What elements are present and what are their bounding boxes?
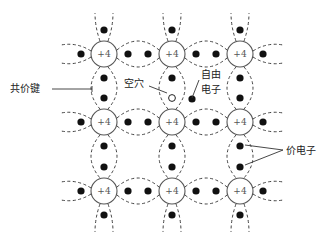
free-electron-label-line2: 电子 xyxy=(201,83,221,96)
atoms: +4+4+4+4+4+4+4+4+4 xyxy=(91,41,253,204)
bond-outline xyxy=(185,178,227,204)
edge-bond-right xyxy=(253,44,283,64)
electron-dot xyxy=(100,211,107,218)
edge-bond-right xyxy=(253,181,283,201)
atom-core: +4 xyxy=(159,178,185,204)
electron-dot xyxy=(212,50,219,57)
free-electron xyxy=(188,95,195,102)
bond-outline xyxy=(227,67,253,109)
hole xyxy=(169,95,176,102)
electron-dot xyxy=(168,74,175,81)
hole-leader xyxy=(149,86,167,93)
atom-charge-label: +4 xyxy=(165,49,179,59)
bond-outline xyxy=(117,178,159,204)
electron-dot xyxy=(77,187,84,194)
bond-outline xyxy=(117,41,159,67)
electron-dot xyxy=(259,118,266,125)
atom-core: +4 xyxy=(159,41,185,67)
atom-charge-label: +4 xyxy=(165,186,179,196)
electron-dot xyxy=(100,74,107,81)
atom-core: +4 xyxy=(159,109,185,135)
atom-core: +4 xyxy=(227,109,253,135)
free-electron-leader xyxy=(192,80,199,98)
electron-dot xyxy=(100,163,107,170)
electron-dot xyxy=(168,142,175,149)
electron-dot xyxy=(124,187,131,194)
bond-outline xyxy=(185,41,227,67)
bond-outline xyxy=(159,135,185,178)
bond-outline xyxy=(91,135,117,178)
electron-dot xyxy=(168,26,175,33)
edge-bond-left xyxy=(61,44,91,64)
electron-dot xyxy=(259,187,266,194)
valence-electron-label: 价电子 xyxy=(286,144,316,157)
atom-core: +4 xyxy=(91,109,117,135)
edge-bond-left xyxy=(61,181,91,201)
electron-dot xyxy=(100,94,107,101)
electron-dot xyxy=(212,187,219,194)
electron-dot xyxy=(100,142,107,149)
bond-outline xyxy=(117,109,159,135)
electron-dot xyxy=(144,50,151,57)
electron-dot xyxy=(236,163,243,170)
electron-dot xyxy=(77,50,84,57)
electron-dot xyxy=(192,50,199,57)
atom-charge-label: +4 xyxy=(97,117,111,127)
electron-dot xyxy=(236,74,243,81)
electron-dot xyxy=(212,118,219,125)
atom-charge-label: +4 xyxy=(233,49,247,59)
atom-charge-label: +4 xyxy=(233,117,247,127)
electron-dot xyxy=(192,118,199,125)
atom-charge-label: +4 xyxy=(97,186,111,196)
electron-dot xyxy=(259,50,266,57)
atom-core: +4 xyxy=(227,178,253,204)
electron-dot xyxy=(236,142,243,149)
edge-bond-right xyxy=(253,112,283,132)
atom-charge-label: +4 xyxy=(233,186,247,196)
bond-outline xyxy=(227,135,253,178)
valence-electron-leader-2 xyxy=(245,150,283,165)
valence-electron-leader-1 xyxy=(245,145,283,150)
electron-dot xyxy=(168,211,175,218)
bond-outline xyxy=(159,67,185,109)
electron-dot xyxy=(124,50,131,57)
free-electron-label-line1: 自由 xyxy=(201,68,221,81)
electron-dot xyxy=(100,26,107,33)
electron-dot xyxy=(236,26,243,33)
edge-bond-left xyxy=(61,112,91,132)
electron-dot xyxy=(144,118,151,125)
atom-charge-label: +4 xyxy=(97,49,111,59)
bond-outline xyxy=(91,67,117,109)
bond-outline xyxy=(185,109,227,135)
electron-dot xyxy=(77,118,84,125)
electron-dot xyxy=(168,163,175,170)
electron-dot xyxy=(124,118,131,125)
atom-core: +4 xyxy=(91,41,117,67)
electron-dot xyxy=(236,94,243,101)
electron-dot xyxy=(236,211,243,218)
electron-dot xyxy=(192,187,199,194)
covalent-bond-label: 共价键 xyxy=(10,82,40,95)
atom-core: +4 xyxy=(227,41,253,67)
lattice-diagram: +4+4+4+4+4+4+4+4+4 xyxy=(0,0,330,247)
electron-dot xyxy=(144,187,151,194)
atom-charge-label: +4 xyxy=(165,117,179,127)
atom-core: +4 xyxy=(91,178,117,204)
hole-label: 空穴 xyxy=(124,77,144,90)
